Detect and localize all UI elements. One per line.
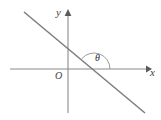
arrow-up-icon bbox=[65, 9, 72, 16]
origin-label: O bbox=[55, 71, 62, 81]
figure-canvas: y x O θ bbox=[0, 0, 161, 120]
y-axis-label: y bbox=[56, 7, 61, 18]
angle-theta-label: θ bbox=[95, 53, 100, 63]
plotted-line bbox=[24, 12, 145, 113]
x-axis-label: x bbox=[150, 67, 155, 78]
coordinate-plane-svg bbox=[0, 0, 161, 120]
